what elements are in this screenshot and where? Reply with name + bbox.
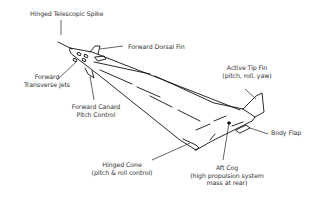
label-hinged-telescopic-spike: Hinged Telescopic Spike: [30, 10, 103, 18]
label-line: (high propulsion system: [186, 172, 268, 180]
leader-lines: [57, 20, 268, 160]
label-line: (pitch & roll control): [86, 169, 158, 177]
canard-leader: [90, 76, 94, 100]
center-line-2: [196, 116, 226, 130]
tip-fin-leader: [245, 89, 256, 99]
vehicle-diagram: [0, 0, 321, 201]
label-line: Transverse Jets: [20, 81, 74, 89]
vehicle-body: [58, 42, 264, 150]
label-body-flap: Body Flap: [271, 129, 301, 137]
label-line: mass at rear): [186, 179, 268, 187]
label-line: Aft Cog: [186, 164, 268, 172]
hinged-cone-shape: [183, 139, 199, 150]
center-line: [150, 96, 200, 121]
body-flap-shape: [236, 125, 250, 133]
canard: [85, 68, 94, 78]
label-line: Forward: [20, 73, 74, 81]
label-line: Hinged Cone: [86, 161, 158, 169]
body-flap-line: [232, 122, 243, 126]
label-line: Active Tip Fin: [216, 64, 278, 72]
label-aft-cog: Aft Cog (high propulsion system mass at …: [186, 164, 268, 187]
label-forward-canard: Forward Canard Pitch Control: [66, 103, 126, 118]
cog-leader: [223, 123, 229, 160]
label-line: Pitch Control: [66, 111, 126, 119]
jet-hole: [77, 52, 82, 56]
label-forward-transverse-jets: Forward Transverse Jets: [20, 73, 74, 88]
dorsal-slot: [95, 56, 106, 61]
label-line: (pitch, roll, yaw): [216, 72, 278, 80]
center-line-3: [210, 134, 215, 140]
body-flap-leader: [250, 128, 268, 134]
jet-hole: [84, 54, 89, 58]
label-hinged-cone: Hinged Cone (pitch & roll control): [86, 161, 158, 176]
jet-hole: [82, 58, 87, 62]
dorsal-fin-leader: [100, 46, 123, 49]
cone-leader: [152, 143, 190, 160]
label-active-tip-fin: Active Tip Fin (pitch, roll, yaw): [216, 64, 278, 79]
label-line: Forward Canard: [66, 103, 126, 111]
label-forward-dorsal-fin: Forward Dorsal Fin: [128, 43, 185, 51]
